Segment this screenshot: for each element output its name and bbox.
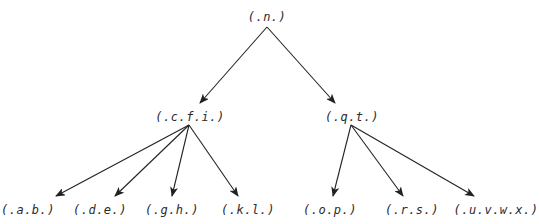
edge-qt-to-rs [351, 125, 403, 196]
edge-cfi-to-gh [172, 125, 189, 196]
edge-group [56, 27, 474, 196]
edge-cfi-to-ab [56, 125, 189, 196]
edge-qt-to-uvwx [351, 125, 474, 196]
node-cfi: (.c.f.i.) [155, 110, 225, 124]
node-n: (.n.) [248, 10, 287, 24]
node-kl: (.k.l.) [221, 203, 275, 217]
node-qt: (.q.t.) [325, 110, 379, 124]
node-de: (.d.e.) [73, 203, 127, 217]
edge-qt-to-op [333, 125, 351, 196]
edge-cfi-to-kl [189, 125, 238, 196]
node-rs: (.r.s.) [385, 203, 439, 217]
node-gh: (.g.h.) [145, 203, 199, 217]
node-op: (.o.p.) [303, 203, 357, 217]
node-ab: (.a.b.) [1, 203, 55, 217]
edge-cfi-to-de [115, 125, 189, 196]
edge-n-to-cfi [200, 27, 267, 103]
edge-n-to-qt [267, 27, 335, 103]
node-uvwx: (.u.v.w.x.) [454, 203, 539, 217]
